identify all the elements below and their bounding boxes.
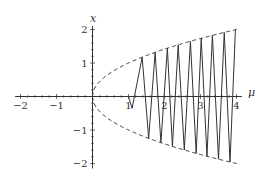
x-tick-label: −1 [49, 100, 64, 111]
upper-envelope [93, 29, 239, 96]
x-axis-label: μ [248, 86, 255, 99]
oscillation-trajectory [129, 30, 236, 162]
y-tick-label: −1 [73, 125, 88, 136]
y-tick-label: −2 [73, 158, 88, 169]
y-tick-label: 2 [81, 24, 87, 35]
y-axis-label: x [90, 12, 97, 25]
trajectory-curve [129, 30, 236, 162]
x-tick-label: −2 [13, 100, 28, 111]
x-tick-label: 2 [161, 100, 167, 111]
x-tick-label: 4 [233, 100, 239, 111]
y-tick-label: 1 [81, 58, 87, 69]
bifurcation-chart: −2−11234−2−112 x μ [0, 0, 267, 177]
